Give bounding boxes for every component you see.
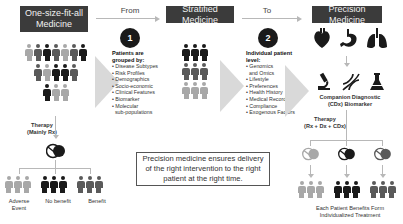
list-item: sub-populations: [112, 109, 167, 116]
down-arrow-icon: [308, 174, 314, 178]
down-arrow-icon: [344, 174, 350, 178]
result-label: Each Patient Benefits Form Individualize…: [300, 205, 400, 219]
dna-icon: [341, 72, 361, 92]
cdx-line-2: (CDx) Biomarker: [310, 101, 390, 108]
outcome-adverse-event: Adverse Event: [2, 198, 36, 212]
person-icon: [95, 176, 103, 193]
person-icon: [61, 64, 69, 81]
step-1-heading: Patients are grouped by:: [112, 50, 167, 63]
list-item: Disease Subtypes: [112, 63, 167, 70]
quote-line-3: patient at the right time.: [137, 174, 269, 184]
quote-line-1: Precision medicine ensures delivery: [137, 154, 269, 164]
result-line-1: Each Patient Benefits Form: [300, 205, 400, 212]
step-1-items: Disease SubtypesRisk ProfilesDemographic…: [112, 63, 167, 116]
one-size-fit-all-title: One-size-fit-all Medicine: [20, 6, 88, 32]
person-icon: [70, 64, 78, 81]
to-arrowhead-icon: [297, 16, 302, 22]
flask-icon: [369, 72, 385, 92]
person-icon: [352, 181, 360, 198]
person-icon: [23, 176, 31, 193]
diagnostic-tool-icons: [315, 72, 385, 92]
result-line-2: Individualized Treatment: [300, 212, 400, 219]
person-icon: [79, 44, 87, 61]
microscope-icon: [315, 72, 333, 92]
person-icon: [59, 176, 67, 193]
left-vline-2: [55, 160, 56, 168]
benefit-group: [297, 181, 324, 198]
list-item: Socio-economic: [112, 83, 167, 90]
to-line: [242, 18, 298, 19]
person-icon: [43, 44, 51, 61]
person-icon: [77, 176, 85, 193]
list-item: Demographics: [112, 76, 167, 83]
person-icon: [182, 82, 190, 99]
stomach-icon: [339, 28, 359, 50]
from-line: [96, 18, 156, 19]
down-arrow-icon: [380, 174, 386, 178]
therapy-line-1: Therapy: [22, 122, 62, 129]
person-icon: [191, 63, 199, 80]
individualized-groups: [292, 145, 402, 205]
person-icon: [200, 82, 208, 99]
stratified-groups: [175, 44, 215, 99]
from-label: From: [110, 6, 150, 15]
person-icon: [43, 64, 51, 81]
list-item: Molecular: [112, 103, 167, 110]
benefit-group: [369, 181, 396, 198]
transition-arrow-2-icon: [220, 60, 244, 112]
left-therapy-label: Therapy (Mainly Rx): [22, 122, 62, 136]
person-icon: [334, 181, 342, 198]
step-1-badge: 1: [120, 28, 140, 48]
therapy-line-1: Therapy: [300, 116, 350, 123]
step-2-heading: Individual patient level:: [246, 50, 304, 63]
person-icon: [298, 181, 306, 198]
step-1-list: Patients are grouped by: Disease Subtype…: [112, 50, 167, 116]
left-drop-3: [90, 168, 91, 174]
outcome-groups: [4, 176, 114, 196]
left-therapy-vline: [55, 116, 56, 136]
person-icon: [379, 181, 387, 198]
patient-crowd: [20, 44, 92, 101]
title-text: Precision Medicine: [312, 4, 382, 26]
outcome-labels: Adverse Event No benefit Benefit: [2, 198, 114, 212]
person-icon: [191, 82, 199, 99]
person-icon: [5, 176, 13, 193]
outcome-group: [76, 176, 103, 193]
person-icon: [307, 181, 315, 198]
pill-capsule-icon: [338, 147, 356, 161]
pill-capsule-icon: [302, 147, 320, 161]
right-therapy-label: Therapy (Rx + Dx + CDx): [300, 116, 350, 130]
person-icon: [43, 84, 51, 101]
outcome-group: [4, 176, 31, 193]
person-icon: [25, 44, 33, 61]
precision-medicine-quote: Precision medicine ensures delivery of t…: [136, 152, 270, 186]
pill-capsule-icon: [374, 147, 392, 161]
person-icon: [61, 44, 69, 61]
person-icon: [182, 44, 190, 61]
person-icon: [370, 181, 378, 198]
person-icon: [61, 84, 69, 101]
companion-diagnostic-label: Companion Diagnostic (CDx) Biomarker: [310, 94, 390, 108]
person-icon: [41, 176, 49, 193]
list-item: Biomarker: [112, 96, 167, 103]
organ-icons: [312, 28, 388, 52]
person-icon: [182, 63, 190, 80]
outcome-no-benefit: No benefit: [41, 198, 75, 212]
title-text: One-size-fit-all Medicine: [20, 8, 88, 30]
person-icon: [343, 181, 351, 198]
transition-arrow-3-icon: [285, 65, 309, 117]
step-2-badge: 2: [258, 28, 278, 48]
person-icon: [34, 64, 42, 81]
left-drop-1: [19, 168, 20, 174]
lungs-icon: [366, 28, 388, 50]
person-icon: [14, 176, 22, 193]
person-icon: [388, 181, 396, 198]
pill-capsule-icon: [46, 143, 66, 159]
benefit-group: [333, 181, 360, 198]
precision-medicine-title: Precision Medicine: [312, 6, 382, 23]
person-icon: [316, 181, 324, 198]
person-icon: [200, 63, 208, 80]
person-icon: [34, 44, 42, 61]
person-icon: [86, 176, 94, 193]
left-drop-2: [55, 168, 56, 174]
